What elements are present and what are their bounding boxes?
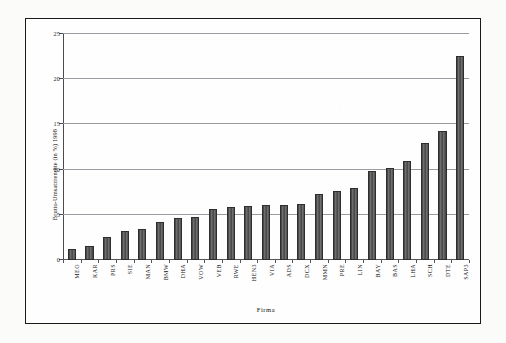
bar <box>403 161 411 260</box>
x-tick-mark <box>451 260 452 263</box>
y-axis-title: Brutto-Umsatzrendite (in %) 1998 <box>51 100 58 250</box>
x-tick-mark <box>416 260 417 263</box>
x-tick-label: LHA <box>410 264 416 304</box>
x-tick-mark <box>151 260 152 263</box>
x-tick-mark <box>134 260 135 263</box>
x-tick-mark <box>222 260 223 263</box>
bar <box>438 131 446 260</box>
x-tick-mark <box>363 260 364 263</box>
x-tick-label: BAY <box>375 264 381 304</box>
bar <box>85 246 93 260</box>
x-tick-label: MMN <box>322 264 328 304</box>
x-tick-label: BAS <box>392 264 398 304</box>
x-tick-label: ADS <box>286 264 292 304</box>
x-tick-mark <box>275 260 276 263</box>
bar <box>244 206 252 260</box>
x-tick-mark <box>292 260 293 263</box>
x-tick-label: SIE <box>127 264 133 304</box>
bar <box>280 205 288 260</box>
x-tick-label: KAR <box>92 264 98 304</box>
x-tick-mark <box>63 260 64 263</box>
bar <box>174 218 182 260</box>
bar <box>350 188 358 260</box>
x-tick-label: SCH <box>427 264 433 304</box>
x-tick-label: MAN <box>145 264 151 304</box>
bar <box>456 56 464 260</box>
x-tick-mark <box>257 260 258 263</box>
bar <box>156 222 164 260</box>
x-tick-label: MEO <box>74 264 80 304</box>
y-tick-label: 20 <box>53 75 60 82</box>
bar <box>297 204 305 260</box>
x-tick-label: RWE <box>233 264 239 304</box>
x-tick-mark <box>328 260 329 263</box>
x-tick-label: DTE <box>445 264 451 304</box>
bar <box>103 237 111 261</box>
bar <box>138 229 146 260</box>
x-tick-label: BMW <box>163 264 169 304</box>
y-tick-label: 0 <box>57 256 60 263</box>
x-axis-tick-labels: MEOKARPRSSIEMANBMWDHAVOWVEBRWEHEN3VIAADS… <box>63 264 469 302</box>
y-axis-title-holder: Brutto-Umsatzrendite (in %) 1998 <box>39 79 53 219</box>
bar <box>227 207 235 260</box>
x-tick-label: VEB <box>216 264 222 304</box>
scanned-page-background: 0510152025 Brutto-Umsatzrendite (in %) 1… <box>0 0 506 343</box>
x-tick-label: DCX <box>304 264 310 304</box>
x-tick-mark <box>240 260 241 263</box>
x-tick-label: HEN3 <box>251 264 257 304</box>
bar <box>421 143 429 260</box>
x-tick-mark <box>116 260 117 263</box>
chart-figure-frame: 0510152025 Brutto-Umsatzrendite (in %) 1… <box>25 18 481 324</box>
bar <box>333 191 341 260</box>
x-tick-mark <box>169 260 170 263</box>
bar <box>315 194 323 260</box>
y-tick-label: 25 <box>53 30 60 37</box>
x-tick-mark <box>381 260 382 263</box>
x-tick-mark <box>345 260 346 263</box>
bar <box>386 168 394 260</box>
bar-series <box>63 33 469 260</box>
bar <box>262 205 270 260</box>
x-tick-mark <box>187 260 188 263</box>
x-tick-mark <box>81 260 82 263</box>
x-axis-title: Firma <box>63 306 469 313</box>
x-tick-mark <box>398 260 399 263</box>
x-tick-label: SAP3 <box>463 264 469 304</box>
x-tick-label: PRS <box>110 264 116 304</box>
x-tick-label: LIN <box>357 264 363 304</box>
x-tick-mark <box>204 260 205 263</box>
x-tick-mark <box>469 260 470 263</box>
x-tick-label: PRE <box>339 264 345 304</box>
bar <box>121 231 129 260</box>
x-tick-label: DHA <box>180 264 186 304</box>
x-tick-label: VIA <box>269 264 275 304</box>
x-tick-mark <box>310 260 311 263</box>
bar <box>191 217 199 260</box>
x-tick-mark <box>434 260 435 263</box>
x-tick-mark <box>98 260 99 263</box>
bar <box>368 171 376 260</box>
x-tick-label: VOW <box>198 264 204 304</box>
plot-wrapper: 0510152025 Brutto-Umsatzrendite (in %) 1… <box>26 19 480 323</box>
bar <box>209 209 217 260</box>
bar <box>68 249 76 260</box>
